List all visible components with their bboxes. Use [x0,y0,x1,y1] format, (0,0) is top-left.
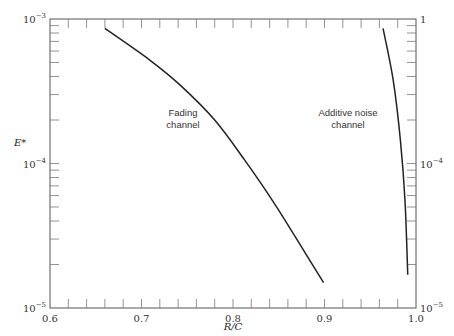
additive-noise-curve [383,28,408,274]
y-axis-title: E* [13,137,26,148]
y-right-tick-label: 10−5 [420,301,443,314]
x-axis-title: R/C [223,321,243,332]
y-right-tick-label: 1 [420,14,426,25]
plot-frame [50,19,416,308]
fading-channel-label: Fading [168,107,197,118]
x-tick-label: 0.9 [317,313,333,324]
additive-noise-label: Additive noise [318,107,377,118]
ticks [50,19,416,308]
fading-channel-curve [105,28,324,282]
x-tick-label: 0.6 [42,313,58,324]
x-tick-label: 0.7 [134,313,150,324]
annotations: FadingchannelAdditive noisechannel [166,107,377,130]
fading-channel-label: channel [166,119,199,130]
y-left-tick-label: 10−4 [23,157,47,170]
x-tick-label: 1.0 [408,313,424,324]
additive-noise-label: channel [331,119,364,130]
y-left-tick-label: 10−3 [23,12,46,25]
tick-labels: 0.60.70.80.91.010−310−410−5110−410−5 [23,12,444,324]
curves [105,28,408,282]
chart: 0.60.70.80.91.010−310−410−5110−410−5 Fad… [0,0,454,336]
y-right-tick-label: 10−4 [420,157,444,170]
